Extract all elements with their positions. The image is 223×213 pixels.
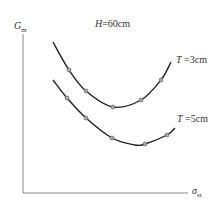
curve-t5 [53, 80, 175, 146]
data-point-marker [84, 89, 88, 93]
data-point-marker [67, 68, 71, 72]
chart-title: H=60cm [95, 18, 130, 29]
data-point-marker [111, 105, 115, 109]
x-axis-label: σst [192, 185, 202, 199]
markers-t3 [67, 68, 163, 109]
series-label-t3: T =3cm [176, 54, 207, 65]
data-point-marker [84, 116, 88, 120]
data-point-marker [139, 98, 143, 102]
data-point-marker [110, 136, 114, 140]
data-point-marker [159, 78, 163, 82]
y-axis-label: Gm [14, 20, 27, 34]
data-point-marker [143, 142, 147, 146]
chart-canvas [0, 0, 223, 213]
data-point-marker [165, 133, 169, 137]
curve-t3 [53, 42, 171, 107]
series-label-t5: T =5cm [177, 113, 208, 124]
markers-t5 [65, 96, 169, 146]
data-point-marker [65, 96, 69, 100]
